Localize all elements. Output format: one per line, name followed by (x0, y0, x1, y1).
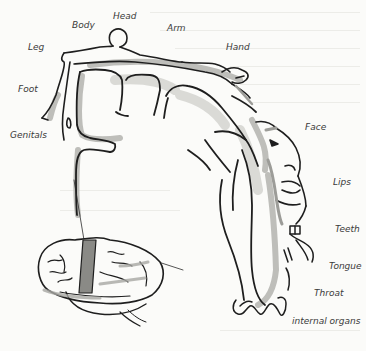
label-body: Body (72, 21, 95, 30)
label-face: Face (305, 123, 326, 132)
brain-inset (38, 238, 163, 326)
label-genitals: Genitals (10, 131, 47, 140)
label-tongue: Tongue (329, 262, 362, 271)
hand-shading (236, 86, 252, 104)
label-teeth: Teeth (335, 225, 360, 234)
label-internal-organs: internal organs (292, 317, 360, 326)
label-leg: Leg (28, 43, 44, 52)
homunculus-illustration (0, 0, 366, 351)
label-foot: Foot (18, 85, 38, 94)
label-throat: Throat (314, 289, 343, 298)
mouth-teeth-tongue (284, 226, 313, 290)
label-lips: Lips (333, 178, 351, 187)
face-profile (256, 121, 306, 224)
label-head: Head (113, 12, 137, 21)
label-hand: Hand (226, 43, 250, 52)
label-arm: Arm (167, 24, 186, 33)
